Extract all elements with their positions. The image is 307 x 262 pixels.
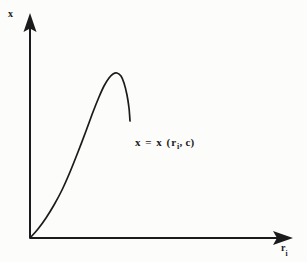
graph-svg — [0, 0, 307, 262]
equation-subscript: i — [177, 142, 179, 151]
y-axis-label-text: x — [8, 8, 13, 19]
figure-canvas: x ri x = x (ri, c) — [0, 0, 307, 262]
equation-prefix: x = x (r — [135, 136, 177, 148]
data-curve — [30, 73, 130, 238]
equation-suffix: , c) — [180, 136, 195, 148]
curve-equation-annotation: x = x (ri, c) — [135, 137, 194, 148]
x-axis-label: ri — [281, 243, 288, 256]
y-axis-label: x — [8, 9, 13, 19]
x-axis-label-subscript: i — [285, 249, 287, 258]
